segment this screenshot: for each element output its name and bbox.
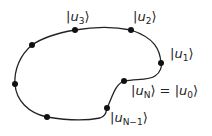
label-u2: |u2⟩ [133,9,156,24]
point-u3 [72,27,78,33]
label-uN-1: |uN−1⟩ [110,110,148,125]
closed-path-diagram [0,0,212,136]
point-u2 [128,27,134,33]
label-uN-eq-u0: |uN⟩ = |u0⟩ [131,83,198,98]
label-u3: |u3⟩ [66,9,89,24]
point-6 [44,114,50,120]
point-u1 [158,60,164,66]
label-u1: |u1⟩ [170,46,193,61]
point-u0 [121,78,127,84]
closed-curve [15,27,161,119]
points [12,27,164,120]
point-5 [12,81,18,87]
point-4 [29,42,35,48]
